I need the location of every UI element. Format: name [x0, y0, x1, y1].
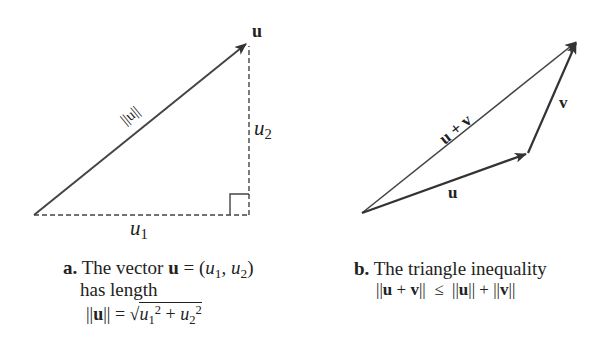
vector-u-arrow-b	[362, 154, 526, 213]
vector-u-arrow	[34, 44, 246, 215]
formula-vec: u	[93, 304, 103, 324]
caption-b-text: The triangle inequality	[374, 258, 547, 279]
ineq-part: || + ||	[468, 280, 500, 299]
right-angle-marker	[230, 194, 249, 215]
formula-plus: +	[161, 304, 180, 324]
figure-a-geometry	[34, 44, 249, 215]
ineq-u: u	[459, 280, 468, 299]
u2-base: u	[254, 116, 265, 140]
vector-v-arrow	[528, 43, 576, 153]
caption-b-title: b. The triangle inequality	[354, 259, 547, 279]
caption-a-close: )	[247, 257, 253, 278]
caption-a-formula: ||u|| = √u12 + u22	[86, 300, 202, 330]
u2-label: u2	[254, 118, 272, 142]
ineq-v: v	[500, 280, 509, 299]
triangle-inequality-formula: ||u + v|| ≤ ||u|| + ||v||	[376, 280, 515, 300]
caption-a-line2: has length	[80, 280, 158, 300]
ineq-part: ||	[376, 280, 383, 299]
u1-base: u	[130, 216, 141, 240]
caption-b-letter: b.	[354, 258, 369, 279]
ineq-part: +	[392, 280, 410, 299]
caption-a-eq: = (	[179, 257, 206, 278]
u-label-b: u	[448, 184, 457, 201]
caption-a-comma: ,	[221, 257, 231, 278]
caption-a-text: The vector	[82, 257, 169, 278]
u2-sub: 2	[265, 126, 272, 142]
sqrt-radicand: u12 + u22	[139, 302, 201, 324]
caption-a-letter: a.	[63, 257, 77, 278]
u1-label: u1	[130, 218, 148, 242]
ineq-v: v	[410, 280, 419, 299]
caption-a-u1: u	[205, 257, 215, 278]
ineq-u: u	[383, 280, 392, 299]
formula-sup2: 2	[196, 303, 202, 317]
norm-bars-close: || = √	[103, 304, 139, 324]
formula-u2: u	[180, 304, 189, 324]
ineq-part: ||	[509, 280, 516, 299]
u1-sub: 1	[141, 226, 148, 242]
ineq-part: || ≤ ||	[419, 280, 459, 299]
vector-u-label: u	[252, 22, 262, 40]
v-label: v	[559, 94, 568, 111]
caption-a-vec: u	[168, 257, 179, 278]
